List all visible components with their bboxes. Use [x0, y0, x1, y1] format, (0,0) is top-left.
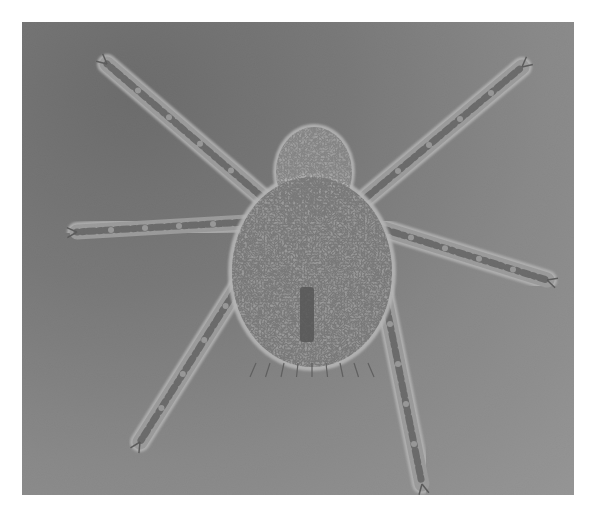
micrograph-photo — [22, 22, 574, 495]
mite-illustration — [22, 22, 574, 495]
film-grain — [22, 22, 574, 495]
